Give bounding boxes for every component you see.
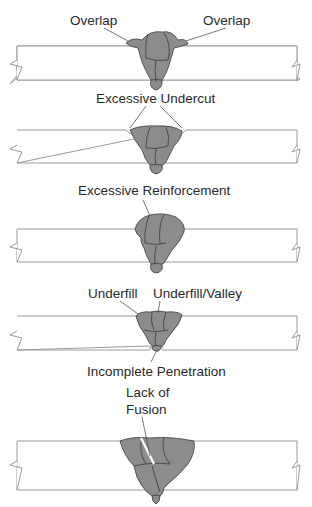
leader-line <box>186 28 226 41</box>
weld-defects-diagram: Overlap Overlap Excessive Undercut <box>0 0 312 507</box>
label-overlap-right: Overlap <box>203 13 250 28</box>
leader-line <box>143 200 150 216</box>
panel-lack-of-fusion: Lack of Fusion <box>10 385 300 504</box>
leader-line <box>151 350 157 362</box>
panel-reinforcement: Excessive Reinforcement <box>10 183 300 273</box>
label-overlap-left: Overlap <box>70 13 117 28</box>
label-incomplete-penetration: Incomplete Penetration <box>87 364 226 379</box>
label-fusion: Fusion <box>126 402 167 417</box>
label-lack-of: Lack of <box>126 385 170 400</box>
weld-bead <box>135 214 184 273</box>
panel-underfill: Underfill Underfill/Valley Incomplete Pe… <box>10 286 300 379</box>
panel-undercut: Excessive Undercut <box>10 91 300 174</box>
leader-line <box>120 301 138 314</box>
label-excessive-reinforcement: Excessive Reinforcement <box>78 183 231 198</box>
leader-line <box>104 28 128 41</box>
label-excessive-undercut: Excessive Undercut <box>96 91 216 106</box>
leader-line <box>160 106 182 128</box>
label-underfill-valley: Underfill/Valley <box>153 286 242 301</box>
leader-line <box>130 106 146 128</box>
label-underfill: Underfill <box>88 286 138 301</box>
panel-overlap: Overlap Overlap <box>10 13 300 90</box>
